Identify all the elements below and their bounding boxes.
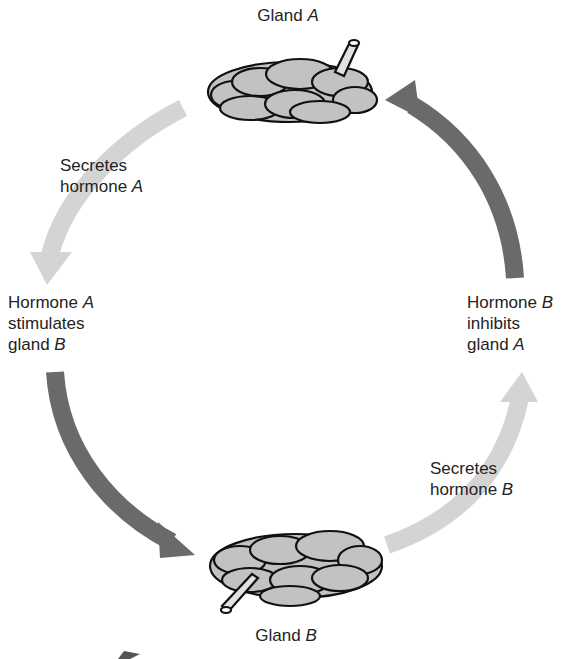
secretes-hormone-a-label: Secretes hormone A [60, 155, 143, 197]
secretes-hormone-b-label: Secretes hormone B [430, 458, 513, 500]
print-artifact [118, 651, 140, 659]
gland-a-illustration [208, 40, 377, 123]
arrow-inhibits-gland-a [385, 80, 515, 278]
gland-b-label: Gland B [236, 625, 336, 646]
hormone-b-inhibits-label: Hormone B inhibits gland A [467, 292, 553, 355]
arrow-stimulates-gland-b [55, 372, 195, 558]
gland-a-label: Gland A [238, 5, 338, 26]
gland-b-illustration [210, 531, 382, 613]
hormone-a-stimulates-label: Hormone A stimulates gland B [8, 292, 94, 355]
